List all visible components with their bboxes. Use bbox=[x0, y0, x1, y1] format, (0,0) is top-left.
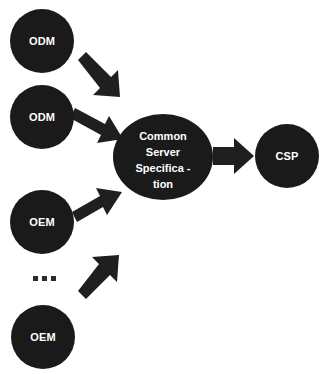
node-spec-label-line-2: Server bbox=[146, 146, 181, 158]
arrow-oem-1-to-spec bbox=[72, 188, 122, 222]
node-odm-2[interactable]: ODM bbox=[10, 85, 74, 149]
arrow-odm-1-to-spec bbox=[78, 52, 120, 97]
node-oem-1[interactable]: OEM bbox=[10, 190, 74, 254]
node-oem-2-label: OEM bbox=[30, 331, 55, 343]
ellipsis-dot-3 bbox=[51, 276, 56, 281]
ellipsis-dot-1 bbox=[33, 276, 38, 281]
ellipsis-indicator bbox=[33, 276, 56, 281]
node-spec-label-line-3: Specifica - bbox=[135, 162, 190, 174]
node-oem-1-label: OEM bbox=[29, 216, 54, 228]
node-common-server-specification[interactable]: Common Server Specifica - tion bbox=[113, 114, 213, 200]
node-oem-2[interactable]: OEM bbox=[11, 305, 75, 369]
node-csp[interactable]: CSP bbox=[255, 124, 319, 188]
ellipsis-dot-2 bbox=[42, 276, 47, 281]
arrow-spec-to-csp bbox=[213, 138, 254, 174]
arrow-odm-2-to-spec bbox=[70, 108, 123, 143]
node-spec-label-line-4: tion bbox=[153, 178, 173, 190]
node-csp-label: CSP bbox=[276, 150, 299, 162]
node-odm-1[interactable]: ODM bbox=[10, 9, 74, 73]
diagram-svg: ODM ODM OEM OEM Common Server Speci bbox=[0, 0, 328, 374]
diagram-canvas: ODM ODM OEM OEM Common Server Speci bbox=[0, 0, 328, 374]
node-odm-2-label: ODM bbox=[29, 111, 55, 123]
node-spec-label-line-1: Common bbox=[139, 130, 187, 142]
arrow-oem-2-to-spec bbox=[78, 255, 119, 299]
node-odm-1-label: ODM bbox=[29, 35, 55, 47]
